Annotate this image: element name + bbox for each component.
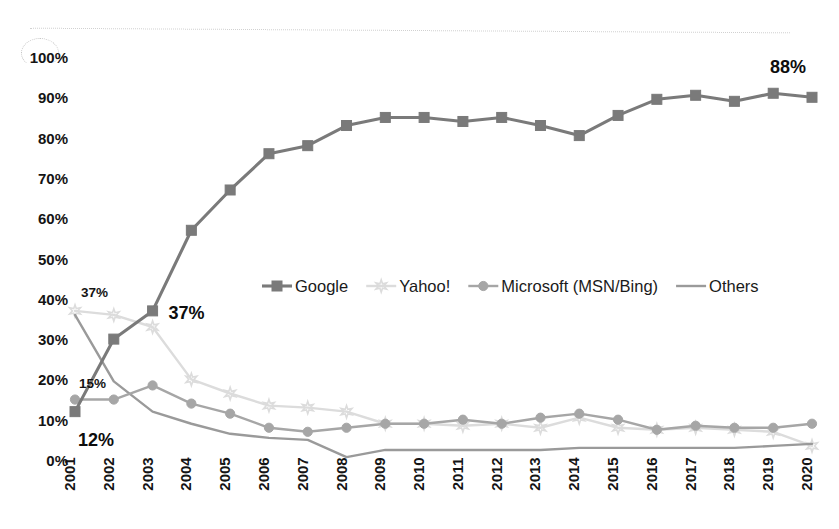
x-axis-tick-label: 2013 (526, 457, 543, 490)
chart-legend: GoogleYahoo!Microsoft (MSN/Bing)Others (262, 277, 759, 295)
data-point-marker (807, 419, 816, 428)
data-point-marker (342, 121, 352, 131)
x-axis-tick-label: 2016 (643, 457, 660, 490)
data-point-marker (497, 419, 506, 428)
data-point-marker (148, 381, 157, 390)
data-point-marker (497, 112, 507, 122)
y-axis-tick-label: 30% (38, 331, 68, 348)
x-axis-tick-label: 2015 (604, 457, 621, 490)
data-point-marker (729, 96, 739, 106)
x-axis-tick-label: 2012 (488, 457, 505, 490)
data-point-marker (264, 149, 274, 159)
data-point-marker (303, 141, 313, 151)
y-axis-tick-label: 80% (38, 130, 68, 147)
legend-item-yahoo[interactable]: Yahoo! (366, 277, 450, 295)
y-axis-tick-label: 70% (38, 170, 68, 187)
data-point-marker (768, 88, 778, 98)
chart-annotation: 12% (78, 430, 114, 450)
x-axis-tick-label: 2011 (449, 458, 466, 491)
data-point-marker (342, 423, 351, 432)
data-point-marker (420, 419, 429, 428)
data-point-marker (380, 112, 390, 122)
legend-label: Yahoo! (399, 277, 450, 295)
data-point-marker (769, 423, 778, 432)
legend-item-others[interactable]: Others (676, 277, 759, 295)
x-axis: 2001200220032004200520062007200820092010… (61, 457, 815, 491)
series-layer (70, 88, 818, 457)
data-point-marker (186, 225, 196, 235)
data-point-marker (691, 421, 700, 430)
chart-svg: 100%90%80%70%60%50%40%30%20%10%0% 200120… (0, 0, 839, 529)
y-axis-tick-label: 20% (38, 371, 68, 388)
y-axis-tick-label: 90% (38, 89, 68, 106)
x-axis-tick-label: 2002 (100, 457, 117, 490)
x-axis-tick-label: 2005 (216, 457, 233, 490)
data-point-marker (807, 92, 817, 102)
search-engine-market-share-chart: 100%90%80%70%60%50%40%30%20%10%0% 200120… (0, 0, 839, 529)
x-axis-tick-label: 2014 (565, 457, 582, 491)
legend-item-google[interactable]: Google (262, 277, 348, 295)
data-point-marker (109, 334, 119, 344)
chart-annotation: 88% (770, 57, 806, 77)
data-point-marker (730, 423, 739, 432)
data-point-marker (691, 90, 701, 100)
x-axis-tick-label: 2019 (759, 457, 776, 490)
data-point-marker (574, 131, 584, 141)
legend-item-microsoft-msn-bing[interactable]: Microsoft (MSN/Bing) (468, 277, 658, 295)
y-axis-tick-label: 10% (38, 412, 68, 429)
legend-label: Others (709, 277, 759, 295)
data-point-marker (226, 409, 235, 418)
legend-label: Microsoft (MSN/Bing) (501, 277, 658, 295)
series-line (75, 93, 812, 411)
data-point-marker (225, 185, 235, 195)
data-point-marker (419, 112, 429, 122)
y-axis: 100%90%80%70%60%50%40%30%20%10%0% (30, 49, 68, 469)
y-axis-tick-label: 60% (38, 210, 68, 227)
x-axis-tick-label: 2003 (139, 457, 156, 490)
data-point-marker (575, 409, 584, 418)
x-axis-tick-label: 2004 (177, 457, 194, 491)
chart-annotation: 37% (81, 285, 108, 300)
chart-annotation: 37% (169, 303, 205, 323)
y-axis-tick-label: 100% (30, 49, 68, 66)
x-axis-tick-label: 2001 (61, 457, 78, 490)
series-line (75, 315, 812, 457)
data-point-marker (652, 94, 662, 104)
data-point-marker (613, 415, 622, 424)
data-point-marker (536, 413, 545, 422)
data-point-marker (535, 121, 545, 131)
data-point-marker (652, 425, 661, 434)
data-point-marker (70, 407, 80, 417)
y-axis-tick-label: 40% (38, 291, 68, 308)
data-point-marker (613, 110, 623, 120)
x-axis-tick-label: 2017 (682, 457, 699, 490)
y-axis-tick-label: 50% (38, 251, 68, 268)
data-point-marker (458, 116, 468, 126)
data-point-marker (264, 423, 273, 432)
series-others (75, 315, 812, 457)
x-axis-tick-label: 2020 (798, 457, 815, 490)
chart-annotation: 15% (79, 376, 106, 391)
x-axis-tick-label: 2010 (410, 457, 427, 490)
data-point-marker (303, 427, 312, 436)
x-axis-tick-label: 2008 (333, 457, 350, 490)
x-axis-tick-label: 2009 (371, 457, 388, 490)
data-point-marker (187, 399, 196, 408)
series-yahoo (70, 305, 818, 452)
data-point-marker (479, 281, 488, 290)
data-point-marker (458, 415, 467, 424)
x-axis-tick-label: 2007 (294, 457, 311, 490)
data-point-marker (109, 395, 118, 404)
x-axis-tick-label: 2018 (720, 457, 737, 490)
data-point-marker (381, 419, 390, 428)
x-axis-tick-label: 2006 (255, 457, 272, 490)
data-point-marker (272, 281, 282, 291)
legend-label: Google (295, 277, 348, 295)
data-point-marker (148, 306, 158, 316)
annotation-layer: 37%15%12%37%88% (78, 57, 806, 449)
